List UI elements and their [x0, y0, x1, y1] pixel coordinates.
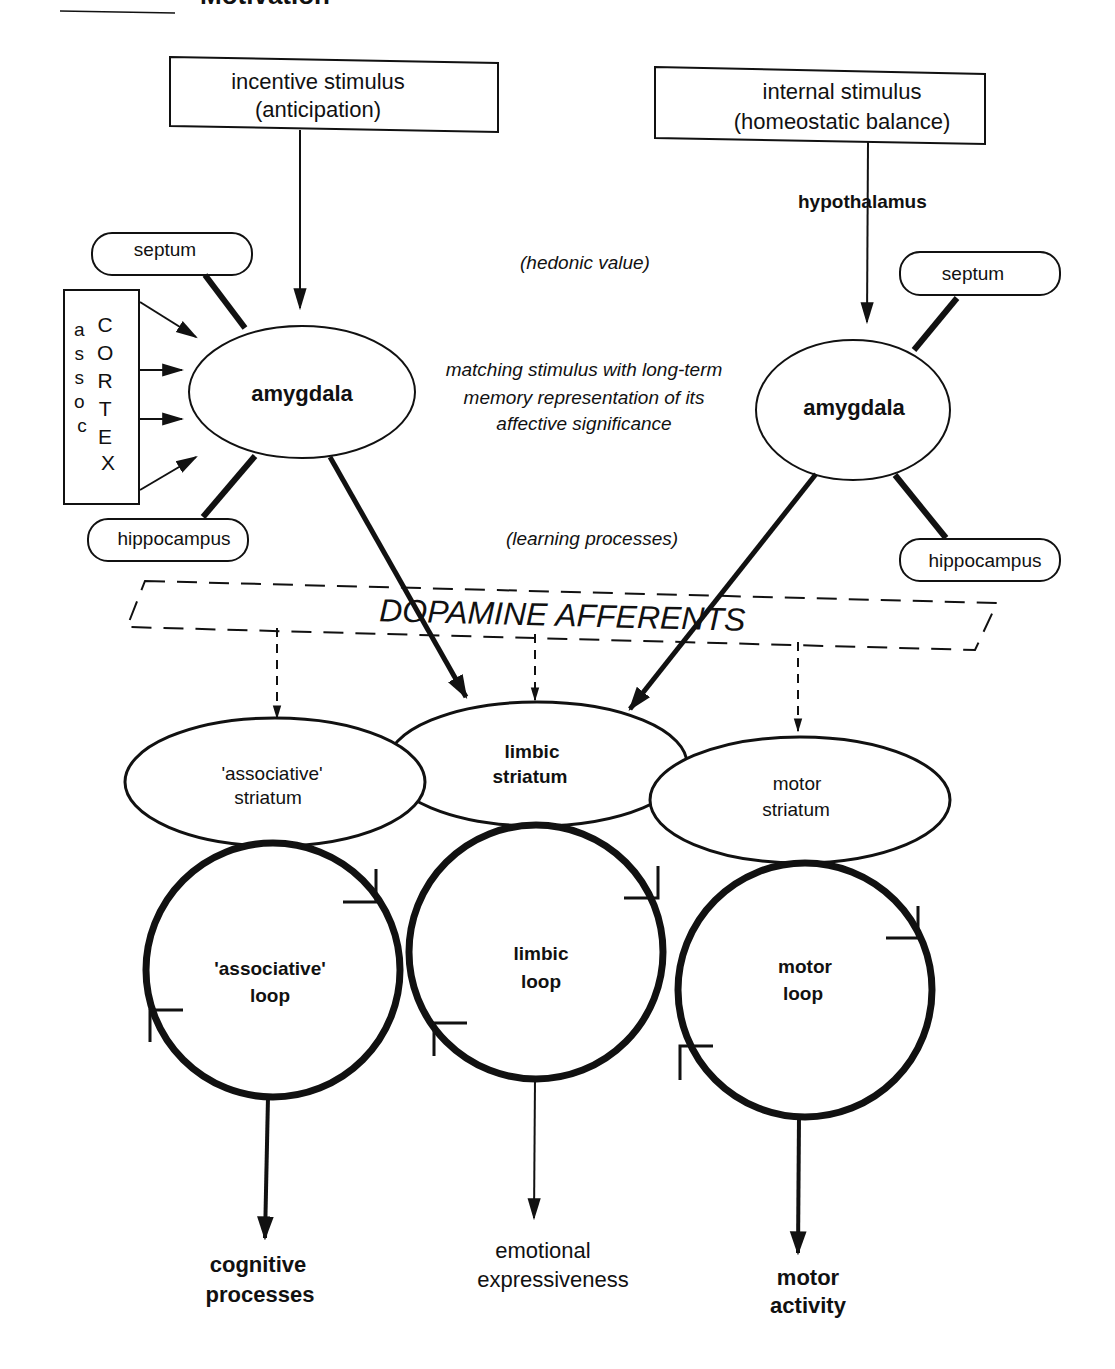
svg-text:incentive stimulus: incentive stimulus	[231, 69, 405, 94]
hedonic-value-annotation: (hedonic value)	[520, 252, 650, 273]
internal-arrow	[867, 142, 868, 322]
incentive-stimulus-box: incentive stimulus (anticipation)	[170, 57, 498, 132]
svg-text:limbic: limbic	[514, 943, 569, 964]
cognitive-output-arrow	[265, 1097, 268, 1238]
limbic-loop: limbic loop	[409, 825, 663, 1079]
limbic-striatum-label-2: striatum	[493, 766, 568, 787]
hypothalamus-label: hypothalamus	[798, 191, 927, 212]
right-amygdala-node: amygdala	[756, 340, 950, 480]
svg-text:matching stimulus with long-te: matching stimulus with long-term	[446, 359, 723, 380]
svg-text:memory representation of its: memory representation of its	[464, 387, 705, 408]
svg-text:affective significance: affective significance	[496, 413, 671, 434]
svg-text:amygdala: amygdala	[251, 381, 353, 406]
svg-text:motor: motor	[778, 956, 832, 977]
matching-annotation: matching stimulus with long-term memory …	[446, 359, 723, 434]
dopamine-afferents-band: DOPAMINE AFFERENTS	[127, 581, 997, 650]
svg-text:(anticipation): (anticipation)	[255, 97, 381, 122]
svg-text:'associative': 'associative'	[221, 763, 322, 784]
motivation-diagram: Motivation incentive stimulus (anticipat…	[0, 0, 1115, 1369]
svg-text:loop: loop	[521, 971, 561, 992]
left-septum-link	[205, 275, 245, 328]
motor-loop: motor loop	[678, 863, 932, 1117]
right-hippocampus-link	[895, 475, 946, 538]
assoc-cortex-box: a s s o c C O R T E X	[64, 290, 139, 504]
associative-striatum-node: 'associative' striatum	[125, 718, 425, 846]
left-septum-node: septum	[92, 233, 252, 275]
svg-text:emotional: emotional	[495, 1238, 590, 1263]
svg-text:motor: motor	[777, 1265, 840, 1290]
svg-text:septum: septum	[942, 263, 1004, 284]
svg-text:'associative': 'associative'	[214, 958, 326, 979]
left-hippocampus-link	[203, 456, 255, 517]
motor-striatum-node: motor striatum	[650, 737, 950, 863]
svg-text:amygdala: amygdala	[803, 395, 905, 420]
header-rule	[60, 11, 175, 13]
svg-text:(homeostatic balance): (homeostatic balance)	[734, 109, 950, 134]
svg-text:activity: activity	[770, 1293, 847, 1318]
right-hippocampus-node: hippocampus	[900, 539, 1060, 581]
svg-text:internal stimulus: internal stimulus	[763, 79, 922, 104]
svg-text:striatum: striatum	[762, 799, 830, 820]
right-amygdala-to-limbic-arrow	[630, 474, 816, 709]
svg-text:hippocampus: hippocampus	[928, 550, 1041, 571]
cognitive-processes-output: cognitive processes	[206, 1252, 315, 1307]
motor-output-arrow	[798, 1117, 799, 1253]
svg-text:motor: motor	[773, 773, 822, 794]
svg-text:septum: septum	[134, 239, 196, 260]
left-hippocampus-node: hippocampus	[88, 519, 248, 561]
left-amygdala-node: amygdala	[189, 326, 415, 458]
limbic-striatum-label-1: limbic	[505, 741, 560, 762]
svg-text:loop: loop	[783, 983, 823, 1004]
svg-text:striatum: striatum	[234, 787, 302, 808]
cropped-title: Motivation	[200, 0, 330, 10]
svg-text:expressiveness: expressiveness	[477, 1267, 629, 1292]
associative-loop: 'associative' loop	[146, 843, 400, 1097]
svg-text:cognitive: cognitive	[210, 1252, 307, 1277]
left-amygdala-to-limbic-arrow	[330, 457, 466, 697]
svg-text:loop: loop	[250, 985, 290, 1006]
emotional-expressiveness-output: emotional expressiveness	[477, 1238, 629, 1292]
svg-text:hippocampus: hippocampus	[117, 528, 230, 549]
limbic-striatum-node	[387, 702, 687, 826]
right-septum-node: septum	[900, 252, 1060, 295]
learning-processes-annotation: (learning processes)	[506, 528, 678, 549]
internal-stimulus-box: internal stimulus (homeostatic balance)	[655, 67, 985, 144]
motor-activity-output: motor activity	[770, 1265, 847, 1318]
svg-text:processes: processes	[206, 1282, 315, 1307]
cortex-arrows	[140, 302, 196, 490]
right-septum-link	[914, 298, 957, 350]
emotional-output-arrow	[534, 1079, 535, 1218]
